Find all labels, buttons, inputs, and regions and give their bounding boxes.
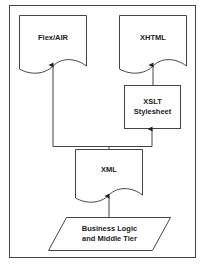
flex-air-node: Flex/AIR bbox=[20, 16, 87, 74]
xml-label: XML bbox=[101, 165, 117, 174]
business-logic-node: Business Logic and Middle Tier bbox=[49, 218, 171, 251]
architecture-diagram: Flex/AIR XHTML XSLT Stylesheet XML Busin… bbox=[0, 0, 203, 268]
business-logic-label-line1: Business Logic bbox=[82, 224, 137, 233]
xslt-label-line2: Stylesheet bbox=[134, 107, 172, 116]
xhtml-label: XHTML bbox=[140, 33, 166, 42]
xml-node: XML bbox=[76, 150, 143, 203]
xhtml-node: XHTML bbox=[120, 16, 187, 74]
xslt-label-line1: XSLT bbox=[143, 97, 162, 106]
xslt-node: XSLT Stylesheet bbox=[125, 86, 181, 129]
business-logic-label-line2: and Middle Tier bbox=[82, 234, 137, 243]
flex-air-label: Flex/AIR bbox=[38, 33, 69, 42]
